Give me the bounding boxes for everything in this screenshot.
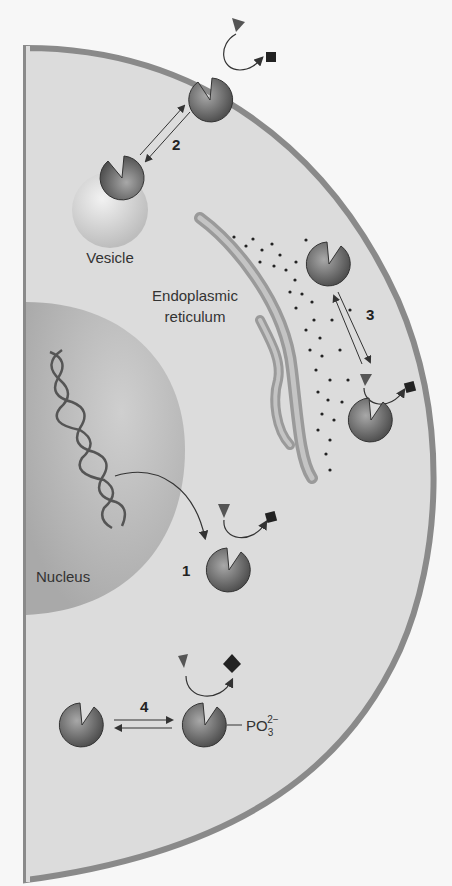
nucleus-label: Nucleus: [36, 568, 90, 585]
er-label-line2: reticulum: [165, 308, 226, 325]
step-1-label: 1: [182, 562, 190, 579]
substrate-triangle-icon: [232, 18, 245, 32]
step-2-label: 2: [172, 136, 180, 153]
step-3-label: 3: [366, 306, 374, 323]
er-label-line1: Endoplasmic: [152, 287, 238, 304]
reaction-arrow-2: [224, 34, 262, 70]
cell-diagram: Nucleus Endoplasmic reticulum 2 Vesicle: [0, 0, 452, 886]
step-4-label: 4: [140, 698, 149, 715]
enzyme-membrane: [189, 78, 233, 122]
product-square-icon: [266, 52, 276, 62]
vesicle-label: Vesicle: [86, 249, 134, 266]
